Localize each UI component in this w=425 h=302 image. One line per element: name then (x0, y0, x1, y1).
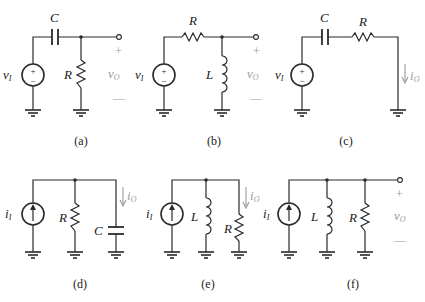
output-label: iO (410, 68, 420, 84)
circuit-a: C R + − vI + vO — (a) (3, 10, 126, 148)
output-minus: — (249, 91, 263, 105)
ground-icon (164, 252, 180, 258)
resistor-label: R (58, 210, 67, 225)
ground-icon (390, 110, 406, 116)
current-source-icon (22, 203, 44, 225)
circuit-b: R L + − vI + vO — (b) (135, 13, 263, 148)
svg-text:+: + (161, 66, 166, 76)
output-plus: + (396, 187, 403, 201)
source-label: vI (275, 67, 284, 83)
output-terminal (117, 35, 122, 40)
caption: (d) (73, 277, 87, 291)
resistor-label: R (358, 14, 367, 29)
ground-icon (231, 252, 247, 258)
circuit-diagram-figure: C R + − vI + vO — (a) R L (0, 0, 425, 302)
circuit-f: L R iI + vO — (f) (263, 178, 407, 291)
output-terminal (398, 178, 403, 183)
ground-icon (294, 110, 310, 116)
ground-icon (25, 252, 41, 258)
circuit-d: R C iI iO (d) (5, 178, 137, 291)
output-label: iO (250, 188, 260, 204)
source-label: iI (146, 206, 153, 222)
inductor-l (206, 198, 211, 234)
resistor-r (182, 33, 204, 41)
source-label: vI (135, 67, 144, 83)
junction-node (325, 178, 329, 182)
output-label: vO (108, 66, 120, 82)
caption: (f) (347, 277, 359, 291)
caption: (b) (207, 134, 221, 148)
svg-text:−: − (30, 76, 35, 86)
voltage-source-icon: + − (22, 64, 44, 86)
capacitor-label: C (320, 10, 329, 25)
capacitor-c (322, 29, 328, 45)
junction-node (79, 35, 83, 39)
wire (289, 180, 400, 203)
capacitor-label: C (94, 223, 103, 238)
resistor-r (352, 33, 374, 41)
circuit-e: L R iI iO (e) (146, 178, 260, 291)
capacitor-c (108, 227, 124, 234)
output-plus: + (253, 44, 260, 58)
wire (33, 37, 119, 64)
svg-text:+: + (299, 66, 304, 76)
ground-icon (108, 252, 124, 258)
output-terminal (254, 35, 259, 40)
source-label: iI (5, 206, 12, 222)
capacitor-c (52, 29, 58, 45)
output-minus: — (393, 233, 407, 247)
svg-text:−: − (161, 76, 166, 86)
resistor-label: R (188, 13, 197, 28)
svg-text:−: − (299, 76, 304, 86)
resistor-label: R (223, 221, 232, 236)
junction-node (220, 35, 224, 39)
inductor-label: L (310, 209, 318, 224)
output-label: vO (247, 66, 259, 82)
svg-text:+: + (30, 66, 35, 76)
resistor-r (235, 214, 243, 241)
ground-icon (198, 252, 214, 258)
output-plus: + (115, 44, 122, 58)
wire (302, 37, 398, 110)
inductor-label: L (205, 67, 213, 82)
output-label: vO (394, 208, 406, 224)
inductor-l (222, 56, 227, 92)
ground-icon (319, 252, 335, 258)
resistor-label: R (63, 67, 72, 82)
resistor-r (71, 203, 79, 231)
inductor-l (327, 198, 332, 234)
voltage-source-icon: + − (291, 64, 313, 86)
voltage-source-icon: + − (153, 64, 175, 86)
current-arrow-icon (120, 187, 126, 206)
capacitor-label: C (50, 10, 59, 25)
wire (164, 37, 256, 64)
junction-node (204, 178, 208, 182)
current-source-icon (161, 203, 183, 225)
ground-icon (67, 252, 83, 258)
inductor-label: L (190, 209, 198, 224)
caption: (a) (74, 134, 87, 148)
caption: (c) (339, 134, 352, 148)
junction-node (73, 178, 77, 182)
current-arrow-icon (243, 187, 249, 208)
circuit-c: C R + − vI iO (c) (275, 10, 420, 148)
resistor-r (77, 60, 85, 88)
ground-icon (281, 252, 297, 258)
current-source-icon (278, 203, 300, 225)
ground-icon (156, 110, 172, 116)
caption: (e) (201, 277, 214, 291)
ground-icon (25, 110, 41, 116)
ground-icon (214, 110, 230, 116)
resistor-r (361, 203, 369, 231)
current-arrow-icon (402, 64, 408, 83)
junction-node (363, 178, 367, 182)
output-label: iO (127, 188, 137, 204)
output-minus: — (112, 91, 126, 105)
source-label: iI (263, 206, 270, 222)
ground-icon (73, 110, 89, 116)
source-label: vI (3, 67, 12, 83)
ground-icon (357, 252, 373, 258)
resistor-label: R (348, 210, 357, 225)
